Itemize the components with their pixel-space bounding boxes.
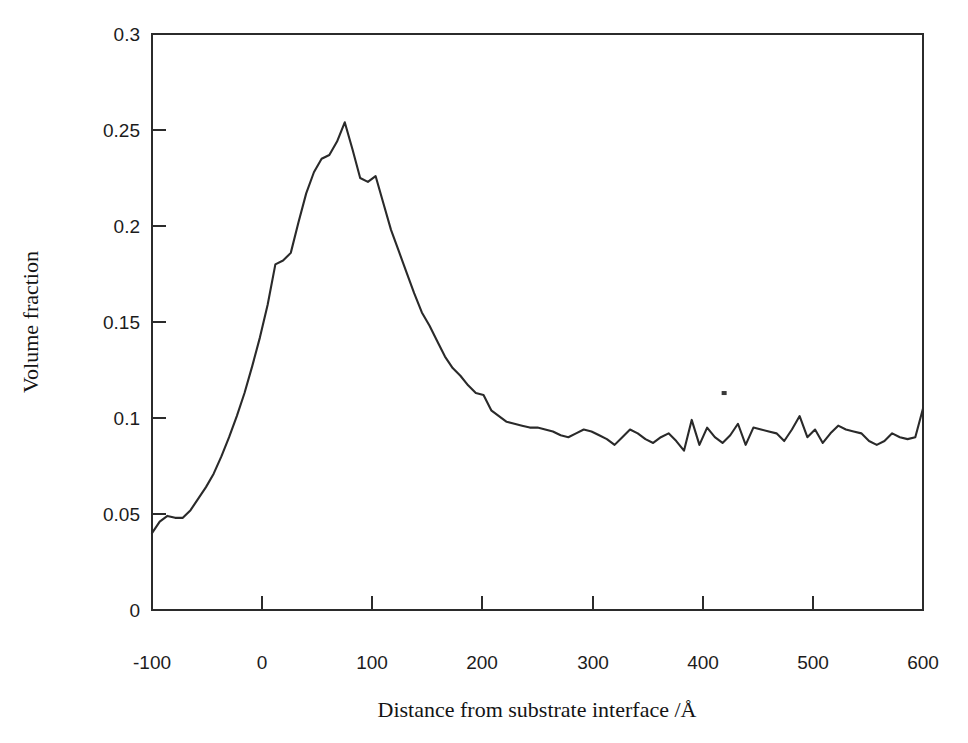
y-tick-label-0.1: 0.1 [114, 408, 140, 429]
y-tick-label-0.15: 0.15 [103, 312, 140, 333]
y-tick-label-0.25: 0.25 [103, 120, 140, 141]
y-tick-label-0.05: 0.05 [103, 504, 140, 525]
x-tick-label-300: 300 [577, 652, 609, 673]
y-tick-label-0.2: 0.2 [114, 216, 140, 237]
x-axis-tick-labels: -100 0 100 200 300 400 500 600 [133, 652, 939, 673]
y-tick-label-0.3: 0.3 [114, 24, 140, 45]
x-tick-label-100: 100 [356, 652, 388, 673]
x-axis-ticks [262, 596, 813, 610]
y-axis-ticks [152, 130, 166, 514]
x-tick-label-200: 200 [466, 652, 498, 673]
y-tick-label-0: 0 [129, 600, 140, 621]
x-tick-label-600: 600 [907, 652, 939, 673]
y-axis-tick-labels: 0.3 0.25 0.2 0.15 0.1 0.05 0 [103, 24, 140, 621]
speck-artifact [722, 391, 727, 395]
chart-svg: 0.3 0.25 0.2 0.15 0.1 0.05 0 -100 0 100 … [0, 0, 968, 743]
chart-figure: 0.3 0.25 0.2 0.15 0.1 0.05 0 -100 0 100 … [0, 0, 968, 743]
x-axis-title: Distance from substrate interface /Å [378, 697, 697, 722]
x-tick-label-500: 500 [797, 652, 829, 673]
data-series-line [152, 122, 923, 533]
x-tick-label-400: 400 [687, 652, 719, 673]
y-axis-title: Volume fraction [18, 251, 43, 393]
x-tick-label-0: 0 [257, 652, 268, 673]
x-tick-label--100: -100 [133, 652, 171, 673]
plot-frame [152, 34, 923, 610]
